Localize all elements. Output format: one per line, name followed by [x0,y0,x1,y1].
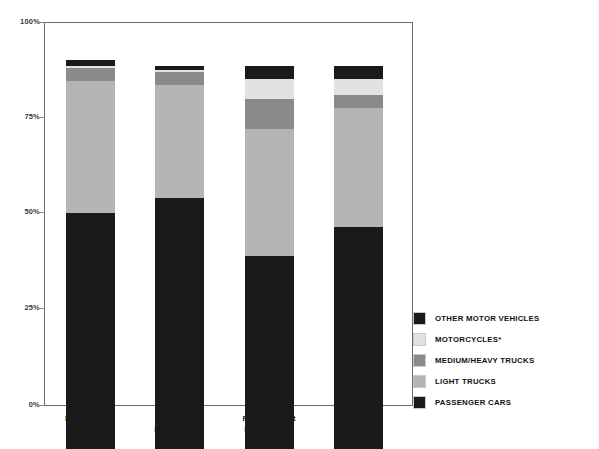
category-label-occupant-fatalities: OccupantFatalities [303,413,413,435]
legend-swatch-passenger-cars [413,396,426,409]
ytick-label-100: 100% [2,18,40,26]
bar-segment [334,108,383,227]
ytick-mark-100 [40,22,45,23]
bar-segment [245,66,294,79]
ytick-label-75: 75% [2,113,40,121]
bar-all-accident-involvements [155,66,204,449]
bar-fatal-accident-involvements [245,66,294,449]
bar-segment [334,95,383,108]
bar-segment [155,72,204,85]
bar-segment [245,129,294,255]
bar-segment [334,66,383,79]
bar-segment [245,79,294,98]
legend-item-motorcycles[interactable]: MOTORCYCLES* [413,329,599,350]
legend-item-light-trucks[interactable]: LIGHT TRUCKS [413,371,599,392]
bar-registrations [66,60,115,449]
ytick-mark-25 [40,308,45,309]
bar-segment [155,198,204,449]
legend-item-medium-heavy-trucks[interactable]: MEDIUM/HEAVY TRUCKS [413,350,599,371]
legend-item-passenger-cars[interactable]: PASSENGER CARS [413,392,599,413]
ytick-label-0: 0% [2,401,40,409]
ytick-mark-0 [40,405,45,406]
bar-segment [334,79,383,94]
bar-segment [66,68,115,81]
ytick-mark-75 [40,117,45,118]
legend-label-light-trucks: LIGHT TRUCKS [435,377,496,386]
legend-label-passenger-cars: PASSENGER CARS [435,398,511,407]
legend-label-motorcycles: MOTORCYCLES* [435,335,502,344]
bar-segment [155,85,204,198]
category-label-line: Occupant [303,413,413,424]
bar-segment [245,99,294,130]
legend-swatch-medium-heavy-trucks [413,354,426,367]
legend-swatch-motorcycles [413,333,426,346]
category-label-line: Fatalities [303,424,413,435]
ytick-label-50: 50% [2,208,40,216]
ytick-mark-50 [40,212,45,213]
stacked-bar-chart: 100% 75% 50% 25% 0% Registrations All Ac… [0,0,599,449]
chart-legend: OTHER MOTOR VEHICLES MOTORCYCLES* MEDIUM… [413,308,599,413]
bar-occupant-fatalities [334,66,383,449]
legend-swatch-light-trucks [413,375,426,388]
bar-segment [66,81,115,213]
legend-swatch-other-motor-vehicles [413,312,426,325]
legend-label-other-motor-vehicles: OTHER MOTOR VEHICLES [435,314,540,323]
legend-item-other-motor-vehicles[interactable]: OTHER MOTOR VEHICLES [413,308,599,329]
ytick-label-25: 25% [2,304,40,312]
legend-label-medium-heavy-trucks: MEDIUM/HEAVY TRUCKS [435,356,534,365]
